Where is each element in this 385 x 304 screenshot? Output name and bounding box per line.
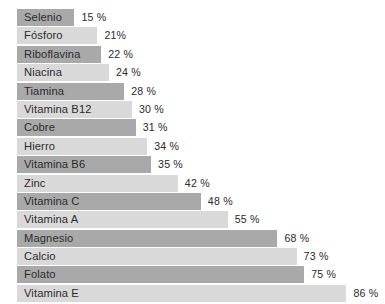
bar-category-label: Riboflavina [24,46,80,63]
horizontal-bar-chart: Selenio15 %Fósforo21%Riboflavina22 %Niac… [0,0,385,304]
bar-category-label: Vitamina B12 [24,101,92,118]
bar-value-label: 35 % [158,156,183,173]
bar-row: Folato75 % [0,266,385,283]
bar-category-label: Niacina [24,64,62,81]
bar-value-label: 86 % [353,285,378,302]
bar-value-label: 68 % [284,230,309,247]
bar-value-label: 21% [104,27,126,44]
bar-row: Zinc42 % [0,175,385,192]
bar-row: Cobre31 % [0,119,385,136]
bar-category-label: Vitamina A [24,211,78,228]
bar-category-label: Cobre [24,119,55,136]
bar-value-label: 30 % [139,101,164,118]
bar-value-label: 42 % [185,175,210,192]
bar-category-label: Hierro [24,138,55,155]
bar-category-label: Vitamina E [24,285,79,302]
bar-rect [17,248,297,265]
bar-rows-container: Selenio15 %Fósforo21%Riboflavina22 %Niac… [0,9,385,302]
bar-category-label: Tiamina [24,83,64,100]
bar-value-label: 31 % [143,119,168,136]
bar-category-label: Calcio [24,248,56,265]
bar-value-label: 15 % [81,9,106,26]
bar-row: Vitamina C48 % [0,193,385,210]
bar-row: Magnesio68 % [0,230,385,247]
bar-row: Selenio15 % [0,9,385,26]
bar-value-label: 48 % [208,193,233,210]
bar-category-label: Folato [24,266,56,283]
bar-row: Vitamina B1230 % [0,101,385,118]
bar-category-label: Fósforo [24,27,63,44]
bar-value-label: 34 % [154,138,179,155]
bar-category-label: Magnesio [24,230,73,247]
bar-value-label: 55 % [235,211,260,228]
bar-row: Vitamina A55 % [0,211,385,228]
bar-row: Calcio73 % [0,248,385,265]
bar-row: Riboflavina22 % [0,46,385,63]
bar-value-label: 75 % [311,266,336,283]
bar-value-label: 73 % [304,248,329,265]
bar-value-label: 28 % [131,83,156,100]
bar-category-label: Vitamina C [24,193,80,210]
bar-row: Hierro34 % [0,138,385,155]
bar-rect [17,266,304,283]
bar-category-label: Selenio [24,9,62,26]
bar-value-label: 24 % [116,64,141,81]
bar-row: Tiamina28 % [0,83,385,100]
bar-row: Fósforo21% [0,27,385,44]
bar-row: Vitamina B635 % [0,156,385,173]
bar-value-label: 22 % [108,46,133,63]
bar-category-label: Vitamina B6 [24,156,85,173]
bar-category-label: Zinc [24,175,46,192]
bar-row: Vitamina E86 % [0,285,385,302]
bar-row: Niacina24 % [0,64,385,81]
